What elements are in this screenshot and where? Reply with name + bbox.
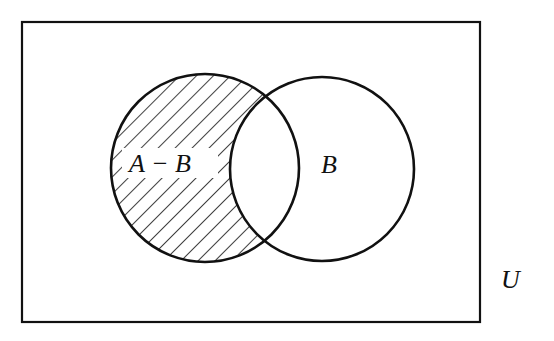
- label-a-minus-b: A − B: [127, 149, 191, 178]
- venn-diagram: A − B B U: [0, 0, 554, 341]
- label-universe: U: [501, 265, 522, 294]
- label-set-b: B: [321, 150, 337, 179]
